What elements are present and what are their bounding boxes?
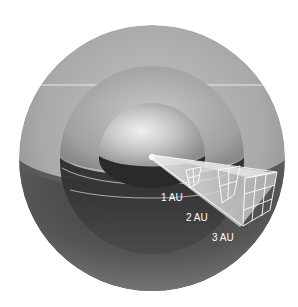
label-1au: 1 AU [161,192,183,203]
label-2au: 2 AU [186,212,208,223]
label-3au: 3 AU [212,232,234,243]
inverse-square-law-diagram: 1 AU 2 AU 3 AU [0,0,298,307]
